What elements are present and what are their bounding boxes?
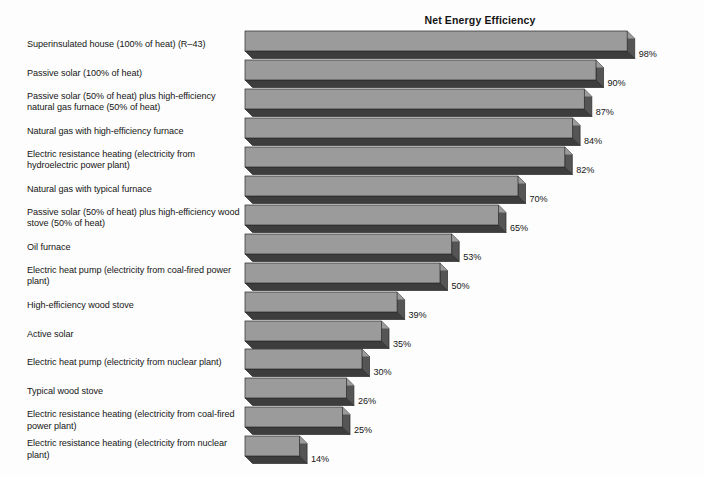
bar-graphic	[245, 349, 373, 380]
bar-bottom-face	[245, 167, 572, 174]
bar-front-face	[245, 321, 382, 341]
chart-title: Net Energy Efficiency	[300, 14, 660, 26]
bar-bottom-face	[245, 283, 448, 291]
bar-front-face	[245, 436, 300, 456]
bar-category-label: Superinsulated house (100% of heat) (R–4…	[27, 39, 245, 50]
bar-bottom-face	[245, 51, 635, 58]
bar-row: Active solar35%	[0, 321, 704, 350]
bar-front-face	[245, 176, 518, 196]
bar-value-label: 39%	[409, 310, 427, 320]
bar-graphic	[245, 234, 462, 265]
bar-front-face	[245, 118, 573, 138]
bar-bottom-face	[245, 80, 604, 88]
bar-bottom-face	[245, 196, 526, 204]
bar-row: Electric resistance heating (electricity…	[0, 147, 704, 176]
bar-graphic	[245, 31, 638, 62]
bar-category-label: Typical wood stove	[27, 386, 245, 397]
bar-front-face	[245, 349, 362, 369]
bar-row: Oil furnace53%	[0, 234, 704, 263]
bar-bottom-face	[245, 109, 592, 116]
bar-front-face	[245, 378, 346, 398]
bar-graphic	[245, 147, 575, 178]
bar-category-label: Electric resistance heating (electricity…	[27, 149, 245, 172]
bar-graphic	[245, 378, 357, 409]
bar-category-label: Electric resistance heating (electricity…	[27, 438, 245, 461]
bar-bottom-face	[245, 369, 370, 377]
bar-value-label: 26%	[358, 396, 376, 406]
bar-row: High-efficiency wood stove39%	[0, 292, 704, 321]
bar-category-label: Passive solar (50% of heat) plus high-ef…	[27, 91, 245, 114]
bar-front-face	[245, 89, 584, 109]
bar-category-label: Active solar	[27, 329, 245, 340]
bar-graphic	[245, 60, 607, 91]
bar-row: Electric resistance heating (electricity…	[0, 407, 704, 436]
bar-front-face	[245, 234, 452, 254]
bar-bottom-face	[245, 341, 389, 349]
bar-value-label: 87%	[596, 107, 614, 117]
bar-value-label: 90%	[608, 78, 626, 88]
net-energy-efficiency-chart: Net Energy Efficiency Superinsulated hou…	[0, 0, 704, 477]
bar-graphic	[245, 407, 353, 438]
bar-category-label: High-efficiency wood stove	[27, 300, 245, 311]
bar-graphic	[245, 176, 529, 207]
bar-category-label: Electric resistance heating (electricity…	[27, 409, 245, 432]
bar-front-face	[245, 147, 565, 167]
bar-value-label: 30%	[374, 367, 392, 377]
bar-category-label: Passive solar (50% of heat) plus high-ef…	[27, 207, 245, 230]
bar-value-label: 53%	[463, 252, 481, 262]
bar-front-face	[245, 205, 499, 225]
bar-front-face	[245, 263, 440, 283]
bar-graphic	[245, 263, 451, 294]
bar-bottom-face	[245, 398, 354, 405]
bar-value-label: 25%	[354, 425, 372, 435]
bar-value-label: 50%	[452, 281, 470, 291]
bar-graphic	[245, 321, 392, 352]
bar-value-label: 35%	[393, 339, 411, 349]
bar-front-face	[245, 60, 596, 80]
bar-graphic	[245, 292, 408, 323]
bar-front-face	[245, 292, 397, 312]
bar-row: Electric heat pump (electricity from coa…	[0, 263, 704, 292]
bar-value-label: 70%	[530, 194, 548, 204]
bar-row: Passive solar (100% of heat)90%	[0, 60, 704, 89]
bar-value-label: 98%	[639, 49, 657, 59]
bar-bottom-face	[245, 312, 405, 319]
bar-bottom-face	[245, 138, 580, 145]
bar-row: Superinsulated house (100% of heat) (R–4…	[0, 31, 704, 60]
bar-row: Electric heat pump (electricity from nuc…	[0, 349, 704, 378]
bar-value-label: 82%	[576, 165, 594, 175]
bar-category-label: Oil furnace	[27, 242, 245, 253]
bar-graphic	[245, 118, 583, 149]
bar-value-label: 84%	[584, 136, 602, 146]
bar-bottom-face	[245, 225, 506, 233]
bar-category-label: Natural gas with typical furnace	[27, 184, 245, 195]
bar-row: Passive solar (50% of heat) plus high-ef…	[0, 89, 704, 118]
bar-bottom-face	[245, 456, 307, 463]
bar-front-face	[245, 31, 627, 51]
bar-value-label: 65%	[510, 223, 528, 233]
bar-value-label: 14%	[311, 454, 329, 464]
bar-graphic	[245, 205, 509, 236]
bar-front-face	[245, 407, 343, 427]
bar-row: Natural gas with typical furnace70%	[0, 176, 704, 205]
bar-row: Natural gas with high-efficiency furnace…	[0, 118, 704, 147]
bar-row: Typical wood stove26%	[0, 378, 704, 407]
bar-category-label: Passive solar (100% of heat)	[27, 68, 245, 79]
bar-graphic	[245, 89, 595, 120]
bar-bottom-face	[245, 254, 459, 261]
bar-category-label: Electric heat pump (electricity from coa…	[27, 265, 245, 288]
bar-row: Electric resistance heating (electricity…	[0, 436, 704, 465]
bar-row: Passive solar (50% of heat) plus high-ef…	[0, 205, 704, 234]
bar-category-label: Natural gas with high-efficiency furnace	[27, 126, 245, 137]
bar-graphic	[245, 436, 310, 467]
bar-category-label: Electric heat pump (electricity from nuc…	[27, 357, 245, 368]
bar-bottom-face	[245, 427, 350, 435]
chart-plot-area: Superinsulated house (100% of heat) (R–4…	[0, 31, 704, 471]
